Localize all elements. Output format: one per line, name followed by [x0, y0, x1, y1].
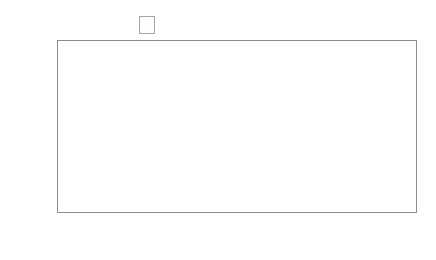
- category-axis: [57, 213, 417, 247]
- y-axis: [0, 0, 57, 260]
- bar-chart: [0, 0, 436, 260]
- chart-legend: [139, 16, 155, 34]
- bars-layer: [57, 40, 417, 213]
